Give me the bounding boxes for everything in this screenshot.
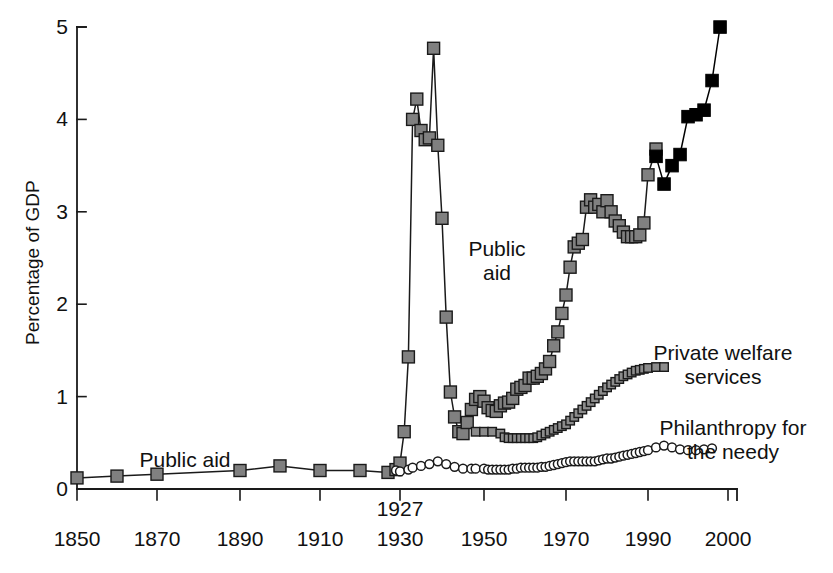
chart-figure: Percentage of GDP 012345 185018701890191… bbox=[0, 0, 833, 573]
x-tick-label-1990: 1990 bbox=[625, 527, 672, 551]
data-point bbox=[402, 351, 414, 363]
data-point bbox=[111, 470, 123, 482]
data-point bbox=[314, 465, 326, 477]
data-point bbox=[444, 386, 456, 398]
y-tick-label-5: 5 bbox=[40, 15, 68, 39]
annotation-public-aid-early: Public aid bbox=[139, 448, 230, 472]
data-point bbox=[411, 93, 423, 105]
data-point bbox=[698, 104, 711, 117]
data-point bbox=[449, 411, 461, 423]
data-point bbox=[644, 364, 653, 373]
data-point bbox=[714, 21, 727, 34]
data-point bbox=[457, 428, 469, 440]
data-point bbox=[461, 417, 473, 429]
data-point bbox=[552, 326, 564, 338]
y-tick-label-0: 0 bbox=[40, 477, 68, 501]
annotation-public-aid-modern: Public aid bbox=[468, 237, 525, 284]
data-point bbox=[428, 42, 440, 54]
data-point bbox=[544, 356, 556, 368]
data-point bbox=[432, 139, 444, 151]
data-point bbox=[576, 234, 588, 246]
data-point bbox=[425, 460, 434, 469]
data-point bbox=[634, 229, 646, 241]
y-tick-label-4: 4 bbox=[40, 107, 68, 131]
x-tick-label-1970: 1970 bbox=[543, 527, 590, 551]
x-tick-label-1890: 1890 bbox=[217, 527, 264, 551]
data-point bbox=[650, 150, 663, 163]
data-point bbox=[433, 457, 442, 466]
data-point bbox=[407, 113, 419, 125]
data-point bbox=[556, 307, 568, 319]
annotation-private-welfare: Private welfare services bbox=[654, 341, 793, 388]
data-point bbox=[642, 169, 654, 181]
data-series-group bbox=[71, 21, 726, 484]
data-point bbox=[442, 460, 451, 469]
x-tick-label-2000: 2000 bbox=[705, 527, 752, 551]
data-point bbox=[408, 463, 417, 472]
data-point bbox=[480, 428, 489, 437]
x-tick-label-1870: 1870 bbox=[134, 527, 181, 551]
data-point bbox=[564, 261, 576, 273]
data-point bbox=[274, 460, 286, 472]
data-point bbox=[417, 462, 426, 471]
data-point bbox=[706, 74, 719, 87]
axis-note-1927: 1927 bbox=[377, 497, 424, 521]
plot-area bbox=[0, 0, 833, 573]
data-point bbox=[471, 464, 480, 473]
x-tick-label-1850: 1850 bbox=[54, 527, 101, 551]
data-point bbox=[471, 428, 480, 437]
data-point bbox=[398, 426, 410, 438]
data-point bbox=[440, 311, 452, 323]
data-point bbox=[674, 148, 687, 161]
data-point bbox=[488, 428, 497, 437]
x-tick-label-1910: 1910 bbox=[297, 527, 344, 551]
x-tick-label-1930: 1930 bbox=[377, 527, 424, 551]
data-point bbox=[548, 340, 560, 352]
y-tick-label-2: 2 bbox=[40, 292, 68, 316]
y-tick-label-3: 3 bbox=[40, 200, 68, 224]
series-public-aid-recent bbox=[650, 21, 727, 191]
y-tick-label-1: 1 bbox=[40, 385, 68, 409]
data-point bbox=[234, 465, 246, 477]
data-point bbox=[396, 467, 405, 476]
data-point bbox=[658, 178, 671, 191]
data-point bbox=[459, 464, 468, 473]
data-point bbox=[71, 472, 83, 484]
data-point bbox=[450, 462, 459, 471]
data-point bbox=[560, 289, 572, 301]
data-point bbox=[601, 195, 613, 207]
annotation-philanthropy: Philanthropy for the needy bbox=[659, 416, 806, 463]
data-point bbox=[436, 212, 448, 224]
x-tick-label-1950: 1950 bbox=[461, 527, 508, 551]
data-point bbox=[638, 217, 650, 229]
data-point bbox=[354, 465, 366, 477]
